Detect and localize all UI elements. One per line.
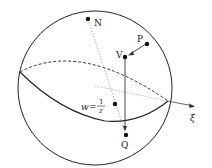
label-n: N [94, 18, 102, 28]
label-q: Q [121, 140, 128, 150]
label-p: P [137, 34, 143, 44]
riemann-sphere-diagram: N P V Q ξ w = 1 z [0, 0, 212, 168]
line-n-q [88, 19, 126, 135]
label-w-num: 1 [99, 98, 103, 106]
point-v [123, 55, 127, 59]
point-n [86, 17, 90, 21]
label-w-eq: = [89, 102, 97, 112]
sphere-outline [18, 11, 172, 165]
label-w-den: z [98, 107, 103, 115]
p-v-arrowhead [128, 51, 134, 56]
xi-axis-arrowhead [189, 104, 195, 109]
diagram-canvas: N P V Q ξ w = 1 z [0, 0, 212, 168]
label-v: V [115, 50, 123, 60]
label-w: w [81, 102, 89, 112]
point-p [145, 42, 149, 46]
label-xi: ξ [190, 113, 196, 123]
point-q [124, 133, 128, 137]
point-w [113, 102, 117, 106]
equator-back [20, 61, 168, 101]
